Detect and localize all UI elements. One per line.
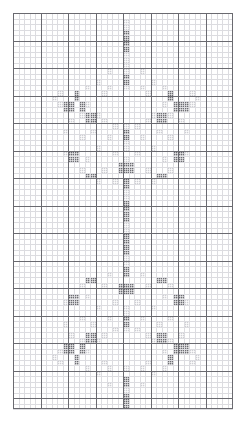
gridline-major-horizontal [13, 151, 233, 152]
gridline-major-vertical [151, 13, 152, 409]
gridline-major-vertical [123, 13, 124, 409]
gridline-major-vertical [41, 13, 42, 409]
gridline-major-horizontal [13, 261, 233, 262]
gridline-major-horizontal [13, 343, 233, 344]
gridline-minor-horizontal [13, 409, 233, 410]
gridline-major-horizontal [13, 316, 233, 317]
gridline-major-vertical [206, 13, 207, 409]
gridline-major-horizontal [13, 371, 233, 372]
gridline-major-vertical [96, 13, 97, 409]
grid-border-bottom [13, 408, 233, 409]
gridline-major-horizontal [13, 206, 233, 207]
grid-border-right [232, 13, 233, 409]
grid-border-top [13, 13, 233, 14]
gridline-major-horizontal [13, 123, 233, 124]
gridline-major-horizontal [13, 68, 233, 69]
gridline-major-horizontal [13, 398, 233, 399]
major-gridlines-layer [13, 13, 233, 409]
gridline-major-horizontal [13, 233, 233, 234]
grid-border-left [13, 13, 14, 409]
gridline-major-horizontal [13, 178, 233, 179]
gridline-major-horizontal [13, 96, 233, 97]
gridline-major-vertical [178, 13, 179, 409]
pattern-grid[interactable] [13, 13, 233, 409]
gridline-major-horizontal [13, 288, 233, 289]
gridline-major-vertical [68, 13, 69, 409]
gridline-major-horizontal [13, 41, 233, 42]
pattern-chart [0, 0, 244, 422]
